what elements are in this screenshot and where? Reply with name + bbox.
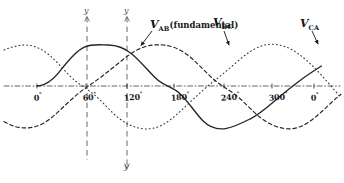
axis-tick-label: 0° — [310, 91, 319, 101]
axis-tick-degree-sign: ° — [236, 90, 239, 97]
axis-tick-degree-sign: ° — [186, 90, 189, 97]
axis-tick-value: 300 — [268, 92, 285, 103]
y-axis-label-top-left: y — [84, 7, 89, 15]
label-vca-subscript: CA — [309, 24, 320, 32]
label-vbc-subscript: BC — [222, 23, 233, 31]
axis-tick-degree-sign: ° — [93, 90, 96, 97]
label-vca: VCA — [300, 18, 319, 32]
axis-tick-value: 60 — [82, 92, 93, 103]
axis-tick-label: 0° — [33, 91, 42, 101]
axis-tick-label: 60° — [82, 91, 96, 102]
axis-tick-value: 240 — [220, 92, 237, 103]
axis-tick-degree-sign: ° — [39, 90, 42, 97]
axis-tick-label: 300° — [268, 91, 288, 102]
label-vab-subscript: AB — [159, 25, 170, 33]
leader-arrow-vca — [312, 31, 318, 44]
curve-vbc — [4, 45, 341, 129]
curve-vca — [4, 44, 341, 129]
axis-tick-degree-sign: ° — [139, 90, 142, 97]
label-vca-symbol: V — [300, 17, 309, 30]
y-axis-label-bottom-right: y — [124, 163, 129, 171]
label-vbc: VBC — [213, 17, 233, 31]
axis-tick-value: 120 — [123, 92, 140, 103]
axis-tick-marks — [37, 84, 314, 89]
axis-tick-degree-sign: ° — [316, 90, 319, 97]
leader-arrow-vbc — [224, 31, 229, 45]
axis-tick-label: 180° — [170, 91, 190, 102]
axis-tick-degree-sign: ° — [284, 90, 287, 97]
leader-arrow-vab — [141, 31, 152, 46]
curve-vab-fundamental — [37, 45, 321, 129]
label-vbc-symbol: V — [213, 16, 222, 29]
axis-tick-value: 180 — [170, 92, 187, 103]
label-vab-symbol: V — [150, 18, 159, 31]
axis-tick-label: 120° — [123, 91, 143, 102]
axis-tick-label: 240° — [220, 91, 240, 102]
y-axis-label-top-right: y — [124, 7, 129, 15]
